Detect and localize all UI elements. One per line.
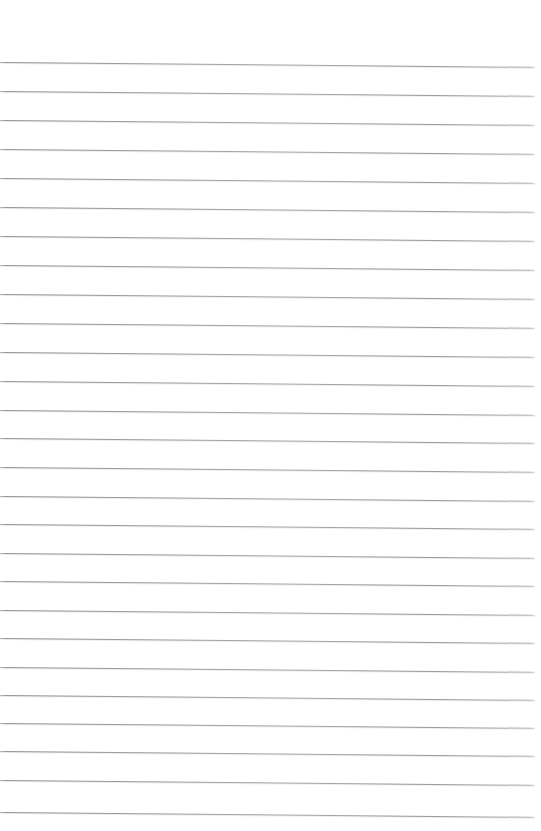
rule-line — [0, 381, 535, 387]
rule-line — [0, 178, 535, 184]
ruled-lines-group — [0, 0, 541, 831]
rule-line — [0, 467, 535, 473]
rule-line — [0, 265, 535, 271]
rule-line — [0, 149, 535, 155]
rule-line — [0, 120, 535, 126]
rule-line — [0, 780, 535, 786]
rule-line — [0, 581, 535, 587]
rule-line — [0, 294, 535, 300]
rule-line — [0, 496, 535, 502]
rule-line — [0, 62, 535, 68]
rule-line — [0, 812, 535, 818]
rule-line — [0, 751, 535, 757]
rule-line — [0, 524, 535, 530]
rule-line — [0, 207, 535, 213]
rule-line — [0, 323, 535, 329]
rule-line — [0, 410, 535, 416]
rule-line — [0, 638, 535, 644]
rule-line — [0, 352, 535, 358]
rule-line — [0, 667, 535, 673]
rule-line — [0, 723, 535, 729]
rule-line — [0, 610, 535, 616]
rule-line — [0, 91, 535, 97]
rule-line — [0, 553, 535, 559]
scanned-page — [0, 0, 541, 831]
rule-line — [0, 695, 535, 701]
rule-line — [0, 438, 535, 444]
rule-line — [0, 236, 535, 242]
